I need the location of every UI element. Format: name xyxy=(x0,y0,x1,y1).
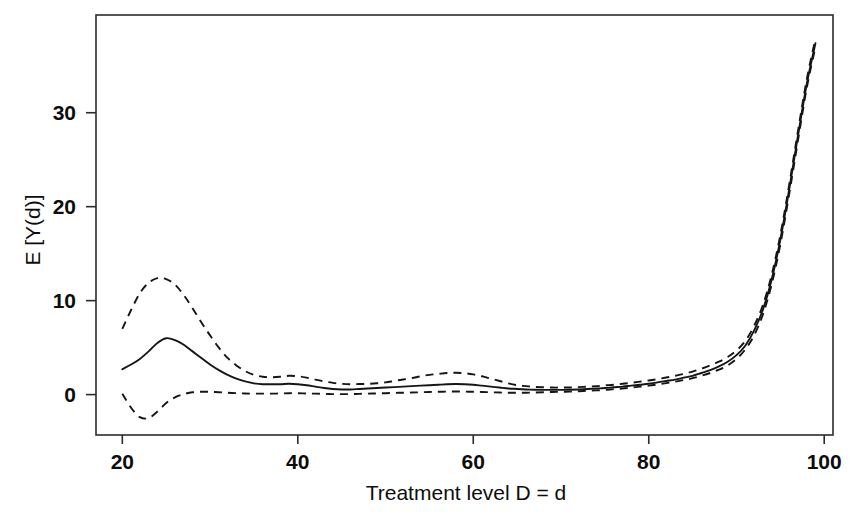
x-tick-label: 60 xyxy=(462,450,485,473)
chart-background xyxy=(0,0,861,522)
x-tick-label: 40 xyxy=(286,450,309,473)
chart-figure: 20406080100 0102030 Treatment level D = … xyxy=(0,0,861,522)
x-tick-label: 100 xyxy=(807,450,842,473)
y-tick-label: 20 xyxy=(53,195,76,218)
dose-response-chart: 20406080100 0102030 Treatment level D = … xyxy=(0,0,861,522)
x-tick-label: 20 xyxy=(111,450,134,473)
x-axis-title: Treatment level D = d xyxy=(366,481,567,504)
y-tick-label: 30 xyxy=(53,101,76,124)
y-tick-label: 0 xyxy=(64,383,76,406)
y-tick-label: 10 xyxy=(53,289,76,312)
x-tick-label: 80 xyxy=(637,450,660,473)
y-axis-title: E [Y(d)] xyxy=(21,194,44,265)
